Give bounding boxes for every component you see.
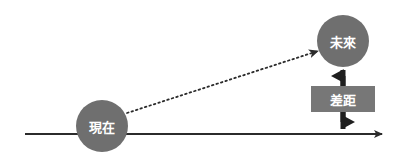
- gap-label-text: 差距: [330, 93, 357, 108]
- growth-trajectory-dotted-line: [127, 51, 318, 113]
- diagram-canvas: 現在 未來 差距: [0, 0, 409, 159]
- node-future-label: 未來: [329, 35, 358, 50]
- node-present-label: 現在: [89, 120, 116, 135]
- gap-analysis-diagram: 現在 未來 差距: [0, 0, 409, 159]
